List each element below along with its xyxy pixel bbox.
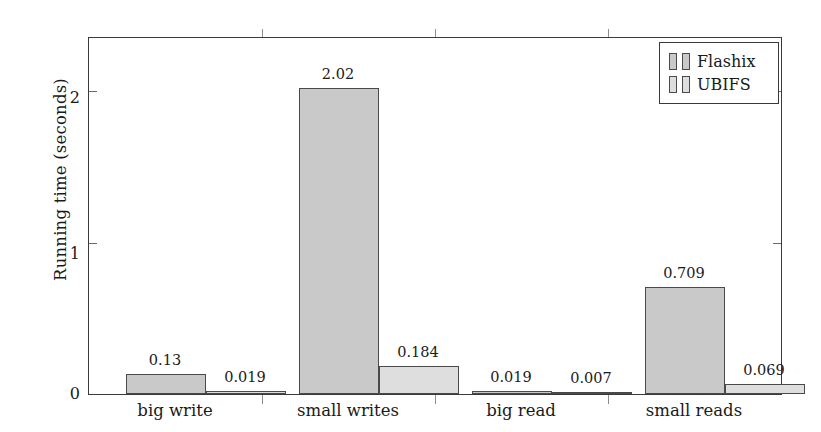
- bar-value-ubifs-small-writes: 0.184: [386, 344, 450, 360]
- bar-flashix-small-reads[interactable]: [645, 287, 725, 394]
- x-category-label-big-write: big write: [115, 401, 235, 420]
- bar-value-ubifs-big-write: 0.019: [213, 369, 277, 385]
- legend-label-ubifs: UBIFS: [697, 75, 751, 94]
- bar-flashix-big-write[interactable]: [126, 374, 206, 394]
- legend-swatch-group-flashix: [669, 53, 690, 70]
- x-axis-separator-tick: [262, 395, 263, 404]
- bar-value-ubifs-small-reads: 0.069: [732, 362, 796, 378]
- plot-frame: Flashix UBIFS: [88, 37, 782, 395]
- bar-ubifs-small-writes[interactable]: [379, 366, 459, 394]
- x-category-label-small-writes: small writes: [278, 401, 418, 420]
- bar-flashix-big-read[interactable]: [472, 391, 552, 394]
- x-axis-separator-tick: [608, 395, 609, 404]
- bar-ubifs-big-read[interactable]: [552, 392, 632, 394]
- bar-value-ubifs-big-read: 0.007: [559, 370, 623, 386]
- bar-value-flashix-small-reads: 0.709: [652, 265, 716, 281]
- bar-value-flashix-big-write: 0.13: [133, 352, 197, 368]
- y-tick-label-2: 2: [40, 88, 80, 107]
- legend-swatch-icon: [669, 76, 677, 93]
- y-tick-2: [89, 91, 97, 92]
- bar-flashix-small-writes[interactable]: [299, 88, 379, 394]
- bar-ubifs-big-write[interactable]: [206, 391, 286, 394]
- x-category-label-big-read: big read: [461, 401, 581, 420]
- legend-swatch-group-ubifs: [669, 76, 690, 93]
- legend-swatch-icon: [682, 76, 690, 93]
- y-tick-1-right: [773, 243, 781, 244]
- x-category-label-small-reads: small reads: [624, 401, 764, 420]
- legend: Flashix UBIFS: [659, 42, 779, 104]
- bar-ubifs-small-reads[interactable]: [725, 384, 805, 394]
- legend-entry-ubifs[interactable]: UBIFS: [669, 73, 770, 96]
- bar-value-flashix-big-read: 0.019: [479, 369, 543, 385]
- bar-value-flashix-small-writes: 2.02: [306, 66, 370, 82]
- plot-area: Flashix UBIFS: [89, 38, 781, 394]
- legend-swatch-icon: [669, 53, 677, 70]
- y-tick-label-0: 0: [40, 384, 80, 403]
- x-axis-separator-tick: [435, 395, 436, 404]
- legend-entry-flashix[interactable]: Flashix: [669, 50, 770, 73]
- y-axis-title: Running time (seconds): [51, 30, 70, 330]
- y-tick-1: [89, 243, 97, 244]
- y-tick-label-1: 1: [40, 244, 80, 263]
- legend-swatch-icon: [682, 53, 690, 70]
- bar-chart-figure: Running time (seconds) 2 1 0: [0, 0, 821, 432]
- legend-label-flashix: Flashix: [697, 52, 755, 71]
